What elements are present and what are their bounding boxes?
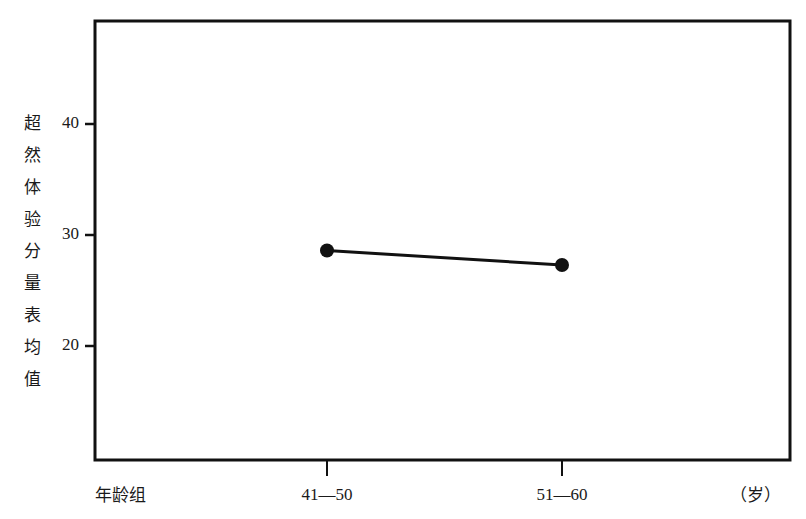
plot-frame <box>95 21 790 460</box>
y-axis-title-char: 表 <box>24 305 41 337</box>
x-axis-unit: （岁） <box>730 485 781 505</box>
x-axis-ticks <box>327 460 562 476</box>
y-axis-title-char: 验 <box>24 209 41 241</box>
y-tick-label: 30 <box>62 224 79 244</box>
data-point-marker <box>555 258 569 272</box>
x-category-label: 51—60 <box>537 485 588 505</box>
y-axis-title-char: 体 <box>24 177 41 209</box>
y-axis-title-char: 量 <box>24 273 41 305</box>
y-axis-title-char: 均 <box>24 337 41 369</box>
y-tick-label: 20 <box>62 335 79 355</box>
y-axis-title-char: 值 <box>24 369 41 401</box>
y-tick-label: 40 <box>62 113 79 133</box>
series-line <box>327 251 562 265</box>
y-axis-title-char: 超 <box>24 113 41 145</box>
x-category-label: 41—50 <box>302 485 353 505</box>
chart-canvas <box>0 0 806 519</box>
y-axis-title-char: 然 <box>24 145 41 177</box>
x-axis-title: 年龄组 <box>95 485 146 505</box>
data-point-marker <box>320 244 334 258</box>
y-axis-title-char: 分 <box>24 241 41 273</box>
y-axis-title: 超 然 体 验 分 量 表 均 值 <box>20 113 44 401</box>
